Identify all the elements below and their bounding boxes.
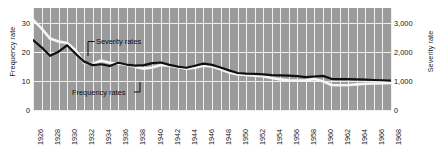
x-tick-1968: 1968 <box>394 129 403 145</box>
x-tick-1928: 1928 <box>53 129 62 145</box>
x-tick-1962: 1962 <box>343 129 352 145</box>
y-axis-label-left: Frequency rate <box>8 16 17 88</box>
x-tick-1954: 1954 <box>275 129 284 145</box>
severity-rates-label: Severity rates <box>96 37 141 46</box>
x-tick-1926: 1926 <box>36 129 45 145</box>
x-tick-1942: 1942 <box>173 129 182 145</box>
x-tick-1940: 1940 <box>156 129 165 145</box>
x-axis-ticks: 1926192819301932193419361938194019421944… <box>0 0 438 150</box>
x-tick-1946: 1946 <box>207 129 216 145</box>
x-tick-1930: 1930 <box>70 129 79 145</box>
x-tick-1934: 1934 <box>104 129 113 145</box>
y-axis-label-right: Severity rate <box>426 16 435 88</box>
x-tick-1966: 1966 <box>377 129 386 145</box>
x-tick-1950: 1950 <box>241 129 250 145</box>
frequency-rates-label: Frequency rates <box>72 88 125 97</box>
x-tick-1948: 1948 <box>224 129 233 145</box>
x-tick-1932: 1932 <box>87 129 96 145</box>
dual-axis-line-chart: 0102030 01,0002,0003,000 192619281930193… <box>0 0 438 150</box>
x-tick-1936: 1936 <box>121 129 130 145</box>
x-tick-1938: 1938 <box>138 129 147 145</box>
x-tick-1944: 1944 <box>190 129 199 145</box>
x-tick-1964: 1964 <box>360 129 369 145</box>
x-tick-1952: 1952 <box>258 129 267 145</box>
x-tick-1960: 1960 <box>326 129 335 145</box>
x-tick-1956: 1956 <box>292 129 301 145</box>
x-tick-1958: 1958 <box>309 129 318 145</box>
